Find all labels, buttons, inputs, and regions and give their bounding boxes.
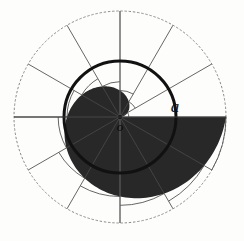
figure-container: ao xyxy=(0,0,244,241)
spiral-diagram: ao xyxy=(0,0,244,241)
center-label-o: o xyxy=(117,119,124,134)
